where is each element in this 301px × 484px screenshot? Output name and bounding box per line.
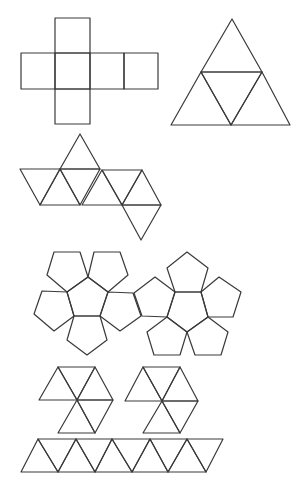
net-face	[58, 400, 95, 433]
cube-net	[21, 18, 158, 124]
net-face	[150, 439, 187, 472]
net-face	[55, 53, 90, 89]
net-face	[134, 277, 175, 317]
net-face	[102, 170, 142, 205]
net-face	[187, 439, 223, 472]
net-face	[122, 170, 161, 205]
icosahedron-net-cap-left	[39, 367, 113, 433]
net-face	[82, 170, 122, 205]
net-face	[143, 367, 180, 401]
net-face	[100, 292, 141, 331]
net-face	[171, 72, 231, 125]
nets-canvas	[0, 0, 301, 484]
icosahedron-net-cap-right	[125, 367, 198, 433]
net-face	[40, 169, 80, 205]
net-face	[38, 439, 76, 472]
net-face	[201, 19, 262, 72]
net-face	[20, 169, 60, 205]
net-face	[147, 317, 187, 355]
net-face	[21, 53, 55, 89]
net-face	[58, 439, 95, 472]
net-face	[112, 439, 150, 472]
net-face	[60, 134, 100, 169]
net-face	[60, 169, 100, 205]
net-face	[168, 439, 206, 472]
net-face	[88, 252, 128, 292]
net-face	[187, 317, 228, 355]
platonic-solid-nets-diagram	[0, 0, 301, 484]
net-face	[124, 53, 158, 89]
net-face	[76, 439, 112, 472]
net-face	[132, 439, 168, 472]
net-face	[201, 72, 262, 125]
net-face	[143, 401, 180, 433]
net-face	[58, 367, 95, 400]
net-face	[67, 316, 107, 355]
octahedron-net	[20, 134, 161, 240]
net-face	[201, 277, 241, 317]
net-face	[90, 53, 124, 89]
net-face	[39, 367, 77, 400]
net-face	[77, 367, 113, 400]
net-face	[162, 367, 198, 401]
net-face	[95, 439, 132, 472]
dodecahedron-net-right	[134, 252, 241, 355]
tetrahedron-net	[171, 19, 290, 125]
icosahedron-net-strip	[21, 439, 223, 472]
net-face	[55, 89, 90, 124]
net-face	[55, 18, 90, 53]
net-face	[231, 72, 290, 125]
net-face	[167, 252, 208, 292]
net-face	[21, 439, 58, 472]
net-face	[125, 367, 162, 401]
net-face	[77, 400, 113, 433]
dodecahedron-net-left	[34, 252, 141, 355]
net-face	[122, 205, 161, 240]
net-face	[34, 291, 74, 331]
net-face	[162, 401, 198, 433]
net-face	[47, 252, 88, 292]
